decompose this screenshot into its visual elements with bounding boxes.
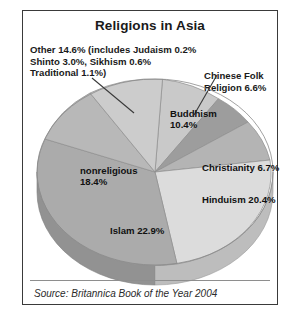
slice-label-buddhism-line2: 10.4%: [170, 119, 217, 130]
source-caption: Source: Britannica Book of the Year 2004: [34, 288, 217, 299]
slice-label-hinduism: Hinduism 20.4%: [202, 194, 276, 205]
slice-label-nonreligious-line1: nonreligious: [80, 165, 138, 176]
slice-label-islam: Islam 22.9%: [110, 225, 164, 236]
slice-label-nonreligious: nonreligious 18.4%: [80, 165, 138, 188]
slice-label-christianity: Christianity 6.7%: [202, 162, 279, 173]
slice-label-buddhism: Buddhism 10.4%: [170, 108, 217, 131]
figure-root: Religions in Asia Other 14.6% (includes …: [0, 0, 300, 323]
source-divider: [30, 280, 270, 281]
slice-label-buddhism-line1: Buddhism: [170, 108, 217, 119]
pie-chart: Buddhism 10.4% Christianity 6.7% Hinduis…: [22, 10, 278, 305]
slice-label-nonreligious-line2: 18.4%: [80, 176, 138, 187]
pie-chart-svg: [22, 10, 278, 305]
